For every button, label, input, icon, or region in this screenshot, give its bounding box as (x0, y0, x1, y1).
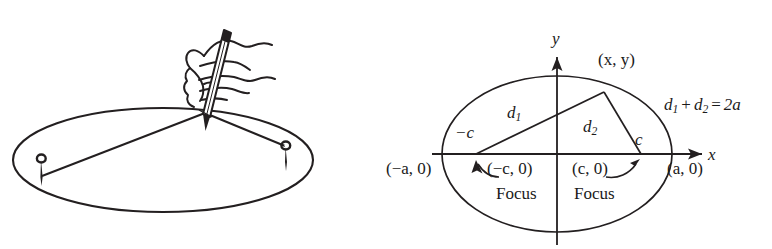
string-segment-left (42, 113, 205, 176)
point-xy-label: (x, y) (598, 51, 635, 68)
figure-canvas: y x (x, y) d1 d2 −c c (−a, 0) (a, 0) (−c… (0, 0, 772, 249)
equation-rhs: 2a (724, 95, 741, 114)
focus-right-coord-label: (c, 0) (572, 160, 608, 177)
thumbtack-pin-left (37, 155, 46, 187)
right-diagram-svg (386, 0, 772, 249)
equation-d2-subscript: 2 (702, 103, 708, 116)
hand-outline (184, 40, 275, 107)
pins-string-construction-panel (0, 0, 386, 249)
ellipse-coordinate-diagram-panel: y x (x, y) d1 d2 −c c (−a, 0) (a, 0) (−c… (386, 0, 772, 249)
focus-left-coord-label: (−c, 0) (487, 160, 532, 177)
vertex-right-label: (a, 0) (667, 160, 703, 177)
d2-subscript: 2 (592, 125, 598, 138)
focus-left-word-label: Focus (496, 185, 537, 202)
ellipse-definition-equation: d1+d2=2a (664, 96, 741, 116)
d1-subscript: 1 (516, 111, 522, 124)
pos-c-label: c (635, 131, 643, 148)
d1-label: d1 (507, 104, 521, 124)
right-focus-pointer-arrow (606, 159, 640, 177)
y-axis-label: y (552, 30, 560, 47)
equation-d1-subscript: 1 (673, 103, 679, 116)
equation-plus: + (681, 95, 691, 114)
neg-c-label: −c (455, 124, 474, 141)
pencil (203, 30, 231, 131)
left-illustration-svg (0, 0, 386, 249)
x-axis (432, 149, 702, 160)
string-segment-right (205, 113, 285, 146)
focus-right-word-label: Focus (574, 185, 615, 202)
vertex-left-label: (−a, 0) (386, 160, 431, 177)
y-axis (552, 57, 563, 245)
drawn-ellipse (13, 108, 313, 212)
d2-label: d2 (583, 118, 597, 138)
x-axis-label: x (708, 146, 716, 163)
equation-equals: = (711, 95, 721, 114)
